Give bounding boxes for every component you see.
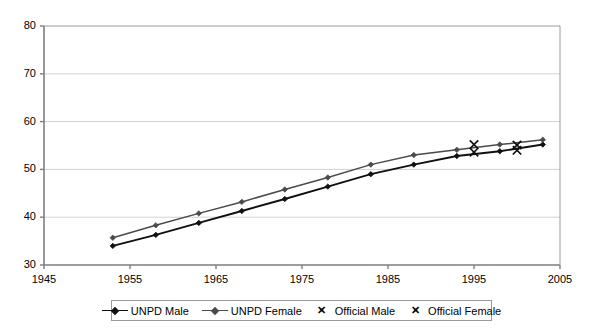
legend-item-unpd-male[interactable]: UNPD Male [102, 305, 189, 317]
legend-label: UNPD Male [131, 305, 189, 317]
x-marker-icon: ✕ [408, 305, 422, 316]
x-tick-label-1955: 1955 [105, 273, 155, 285]
plot-background [44, 26, 560, 265]
y-tick-label-40: 40 [6, 210, 36, 222]
legend-label: Official Male [335, 305, 395, 317]
line-marker-icon [202, 305, 228, 316]
y-tick-label-50: 50 [6, 162, 36, 174]
legend-label: Official Female [428, 305, 501, 317]
x-marker-icon: ✕ [315, 305, 329, 316]
x-tick-label-1975: 1975 [277, 273, 327, 285]
legend-item-official-female[interactable]: ✕Official Female [408, 305, 501, 317]
x-tick-label-2005: 2005 [535, 273, 585, 285]
legend-item-unpd-female[interactable]: UNPD Female [202, 305, 302, 317]
legend-label: UNPD Female [231, 305, 302, 317]
line-chart: 304050607080 194519551965197519851995200… [0, 0, 605, 335]
legend-item-official-male[interactable]: ✕Official Male [315, 305, 395, 317]
x-tick-label-1945: 1945 [19, 273, 69, 285]
y-tick-label-70: 70 [6, 67, 36, 79]
y-tick-label-80: 80 [6, 19, 36, 31]
line-marker-icon [102, 305, 128, 316]
y-tick-label-60: 60 [6, 115, 36, 127]
x-tick-label-1995: 1995 [449, 273, 499, 285]
x-tick-label-1965: 1965 [191, 273, 241, 285]
chart-legend: UNPD MaleUNPD Female✕Official Male✕Offic… [111, 300, 492, 321]
x-tick-label-1985: 1985 [363, 273, 413, 285]
y-tick-label-30: 30 [6, 258, 36, 270]
